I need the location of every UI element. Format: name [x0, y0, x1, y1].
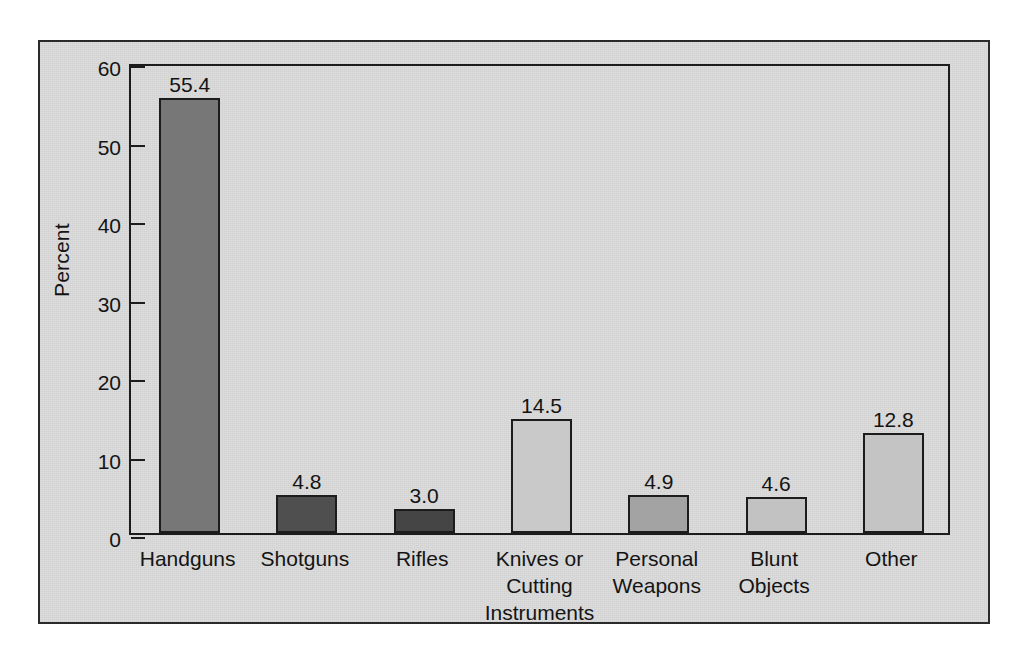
x-label-personal-weapons: PersonalWeapons	[598, 546, 715, 600]
x-label-line: Objects	[715, 573, 832, 600]
y-tick-label: 0	[109, 529, 121, 550]
y-tick-60: 60	[131, 66, 145, 68]
bar-other: 12.8	[863, 433, 924, 533]
x-label-line: Blunt	[715, 546, 832, 573]
y-tick-10: 10	[131, 459, 145, 461]
figure-panel: Percent 0102030405060 55.44.83.014.54.94…	[38, 40, 990, 624]
bar-handguns: 55.4	[159, 98, 220, 533]
x-label-line: Knives or	[481, 546, 598, 573]
x-label-rifles: Rifles	[364, 546, 481, 573]
chart-page: Percent 0102030405060 55.44.83.014.54.94…	[0, 0, 1023, 658]
x-label-line: Handguns	[129, 546, 246, 573]
y-tick-label: 40	[98, 215, 121, 236]
x-label-handguns: Handguns	[129, 546, 246, 573]
bar-value-label: 4.6	[761, 473, 790, 494]
x-label-line: Weapons	[598, 573, 715, 600]
bar-blunt-objects: 4.6	[746, 497, 807, 533]
plot-area: 0102030405060 55.44.83.014.54.94.612.8	[129, 64, 950, 535]
y-tick-0: 0	[131, 537, 145, 539]
bar-value-label: 14.5	[521, 395, 562, 416]
x-label-knives-or-cutting-instruments: Knives orCuttingInstruments	[481, 546, 598, 627]
bar-knives-or-cutting-instruments: 14.5	[511, 419, 572, 533]
x-label-line: Shotguns	[246, 546, 363, 573]
y-tick-label: 50	[98, 136, 121, 157]
bar-value-label: 3.0	[410, 485, 439, 506]
bar-personal-weapons: 4.9	[628, 495, 689, 533]
x-label-line: Rifles	[364, 546, 481, 573]
x-label-blunt-objects: BluntObjects	[715, 546, 832, 600]
bar-value-label: 4.9	[644, 471, 673, 492]
y-tick-40: 40	[131, 223, 145, 225]
x-label-line: Instruments	[481, 600, 598, 627]
x-label-shotguns: Shotguns	[246, 546, 363, 573]
x-label-line: Other	[833, 546, 950, 573]
x-label-other: Other	[833, 546, 950, 573]
y-tick-label: 10	[98, 450, 121, 471]
y-tick-label: 60	[98, 58, 121, 79]
bar-shotguns: 4.8	[276, 495, 337, 533]
bar-value-label: 4.8	[292, 471, 321, 492]
bar-value-label: 55.4	[169, 74, 210, 95]
bar-value-label: 12.8	[873, 409, 914, 430]
y-tick-50: 50	[131, 145, 145, 147]
x-label-line: Personal	[598, 546, 715, 573]
y-tick-label: 30	[98, 293, 121, 314]
y-axis-title: Percent	[50, 223, 74, 297]
bar-rifles: 3.0	[394, 509, 455, 533]
x-label-line: Cutting	[481, 573, 598, 600]
y-tick-20: 20	[131, 380, 145, 382]
y-tick-30: 30	[131, 302, 145, 304]
y-tick-label: 20	[98, 372, 121, 393]
